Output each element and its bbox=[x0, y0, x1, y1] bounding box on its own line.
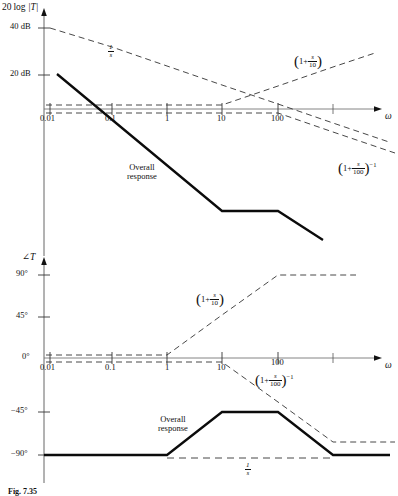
phase-xtick-label-100: 100 bbox=[271, 358, 284, 367]
phase-xtick-label-1: 1 bbox=[165, 363, 169, 372]
phase-overall-line2: response bbox=[158, 423, 188, 433]
magnitude-zero-lead: 1+ bbox=[299, 56, 308, 66]
phase-x-axis-label: ω bbox=[385, 361, 392, 371]
phase-integrator-numerator: 1 bbox=[245, 462, 251, 469]
magnitude-ytick-label-40db: 40 dB bbox=[10, 22, 31, 31]
phase-x-axis-arrow bbox=[374, 355, 382, 361]
phase-zero-lead: 1+ bbox=[201, 294, 210, 304]
phase-ytick-label-90: 90° bbox=[16, 269, 28, 278]
magnitude-x-axis-arrow bbox=[374, 106, 382, 112]
phase-y-axis-arrow bbox=[41, 257, 47, 265]
phase-annotation-zero: (1+s10) bbox=[196, 292, 224, 308]
phase-series-zero bbox=[46, 275, 356, 355]
phase-pole-denominator: 100 bbox=[269, 380, 282, 388]
phase-annotation-pole: (1+s100)−1 bbox=[255, 373, 293, 389]
magnitude-zero-denominator: 10 bbox=[308, 61, 317, 69]
magnitude-xtick-label-0.1: 0.1 bbox=[105, 114, 116, 123]
magnitude-y-axis-arrow bbox=[41, 8, 47, 16]
magnitude-xtick-label-10: 10 bbox=[217, 114, 226, 123]
phase-pole-exponent: −1 bbox=[287, 373, 294, 380]
magnitude-xtick-label-100: 100 bbox=[271, 114, 284, 123]
magnitude-y-axis-label: 20 log |T| bbox=[2, 3, 38, 13]
phase-pole-numerator: s bbox=[269, 373, 282, 380]
phase-ytick-label-neg45: −45° bbox=[11, 406, 28, 415]
phase-integrator-denominator: s bbox=[245, 469, 251, 477]
phase-ytick-label-0: 0° bbox=[22, 352, 30, 361]
magnitude-annotation-overall: Overall response bbox=[127, 163, 157, 181]
phase-annotation-overall: Overall response bbox=[158, 415, 188, 433]
bode-plot-figure: 20 log |T| 40 dB 20 dB 0.01 0.1 1 10 100… bbox=[0, 0, 398, 496]
magnitude-series-overall bbox=[57, 74, 323, 240]
magnitude-xtick-label-0.01: 0.01 bbox=[40, 114, 55, 123]
magnitude-zero-numerator: s bbox=[308, 54, 317, 61]
phase-ytick-label-neg90: −90° bbox=[11, 449, 28, 458]
magnitude-pole-lead: 1+ bbox=[343, 163, 352, 173]
magnitude-series-integrator bbox=[50, 28, 389, 142]
magnitude-pole-denominator: 100 bbox=[352, 168, 365, 176]
magnitude-annotation-zero: (1+s10) bbox=[294, 54, 322, 70]
magnitude-annotation-integrator: 1s bbox=[108, 44, 114, 59]
magnitude-series-zero bbox=[46, 53, 375, 105]
magnitude-plot-group bbox=[38, 8, 395, 256]
magnitude-pole-exponent: −1 bbox=[370, 161, 377, 168]
phase-y-axis-label: ∠T bbox=[22, 253, 35, 263]
magnitude-xtick-label-1: 1 bbox=[165, 114, 169, 123]
phase-zero-numerator: s bbox=[210, 292, 219, 299]
phase-series-pole bbox=[46, 362, 395, 442]
magnitude-x-axis-label: ω bbox=[385, 112, 392, 122]
phase-annotation-integrator: 1s bbox=[245, 462, 251, 477]
phase-xtick-label-0.01: 0.01 bbox=[40, 363, 55, 372]
magnitude-annotation-pole: (1+s100)−1 bbox=[338, 161, 376, 177]
magnitude-ytick-label-20db: 20 dB bbox=[10, 69, 31, 78]
magnitude-pole-numerator: s bbox=[352, 161, 365, 168]
bode-plot-canvas bbox=[0, 0, 398, 496]
phase-pole-lead: 1+ bbox=[260, 375, 269, 385]
phase-xtick-label-10: 10 bbox=[217, 363, 226, 372]
phase-zero-denominator: 10 bbox=[210, 299, 219, 307]
phase-ytick-label-45: 45° bbox=[16, 311, 28, 320]
magnitude-overall-line2: response bbox=[127, 171, 157, 181]
figure-caption: Fig. 7.35 bbox=[8, 488, 37, 496]
phase-xtick-label-0.1: 0.1 bbox=[105, 363, 116, 372]
magnitude-integrator-numerator: 1 bbox=[108, 44, 114, 51]
phase-series-overall bbox=[44, 412, 390, 455]
magnitude-integrator-denominator: s bbox=[108, 51, 114, 59]
